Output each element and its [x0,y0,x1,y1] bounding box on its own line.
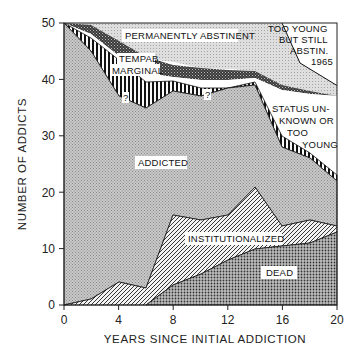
label-too-young-line1: TOO YOUNG [268,23,328,34]
annotation-question: ? [205,89,210,100]
x-tick-label: 16 [276,313,290,327]
x-tick-label: 12 [221,313,235,327]
y-tick-label: 20 [42,186,56,200]
label-too-young-line3: ABSTIN. [290,45,328,56]
y-tick-label: 0 [48,298,55,312]
label-permanently-abstinent: PERMANENTLY ABSTINENT [125,30,255,41]
label-tempab: TEMPAB. [119,53,161,64]
label-too-young-line2: BUT STILL [279,34,328,45]
y-axis [59,23,64,305]
y-axis-title: NUMBER OF ADDICTS [16,98,28,230]
y-tick-label: 40 [42,73,56,87]
label-status-line1: STATUS UN- [272,103,330,114]
y-tick-label: 30 [42,129,56,143]
label-status-line2: KNOWN OR [279,115,334,126]
x-tick-label: 4 [115,313,122,327]
label-too-young-line4: 1965 [311,56,333,67]
annotation-question: ? [123,92,128,103]
label-marginal: MARGINAL [112,65,163,76]
stacked-area-chart: 50 40 30 20 10 0 0 4 8 12 16 20 YEARS SI… [0,0,359,359]
label-status-line3: TOO [287,127,308,138]
y-tick-label: 50 [42,16,56,30]
x-axis-title: YEARS SINCE INITIAL ADDICTION [104,333,306,345]
x-axis [64,305,337,310]
label-addicted: ADDICTED [138,157,188,168]
label-dead: DEAD [266,267,293,278]
label-status-line4: YOUNG [302,139,338,150]
x-tick-label: 20 [330,313,344,327]
y-tick-label: 10 [42,242,56,256]
label-institutionalized: INSTITUTIONALIZED [188,233,284,244]
x-tick-label: 0 [61,313,68,327]
x-tick-label: 8 [170,313,177,327]
